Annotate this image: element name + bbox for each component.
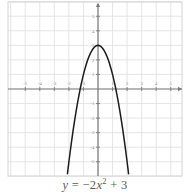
caption-constant: + 3 <box>107 178 128 192</box>
figure-container: -5-4-3-2-112345-5-4-3-2-112345 y = −2x2 … <box>0 0 190 195</box>
figure-caption: y = −2x2 + 3 <box>0 176 190 193</box>
parabola-plot: -5-4-3-2-112345-5-4-3-2-112345 <box>0 0 190 178</box>
caption-equals: = <box>68 178 82 192</box>
caption-coefficient: −2 <box>82 178 96 192</box>
